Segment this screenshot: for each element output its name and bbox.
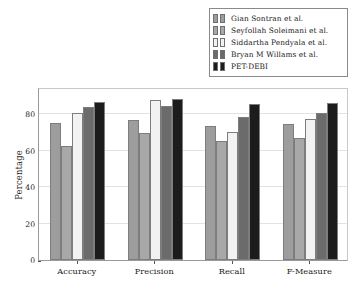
legend-swatch-gian-sontran [213,14,227,23]
y-tick-label: 80 [9,111,35,119]
bar [327,103,338,260]
bar [283,124,294,260]
legend-swatch-bryan-m-willams [213,50,227,59]
y-axis-title: Percentage [14,120,24,230]
bar [150,100,161,260]
legend-label: Bryan M Willams et al. [231,50,318,59]
legend-swatch-pet-debi [213,62,227,71]
bar [172,99,183,260]
legend-label: Gian Sontran et al. [231,14,303,23]
x-tick-label: Accuracy [37,266,117,276]
y-tick-label: 60 [9,148,35,156]
x-tick-label: F-Measure [269,266,349,276]
legend-item: Siddartha Pendyala et al. [213,36,343,48]
bar [161,106,172,260]
bar [205,126,216,260]
y-tick-mark [38,261,41,262]
y-tick-label: 20 [9,221,35,229]
bar [72,113,83,260]
legend-label: PET-DEBI [231,62,268,71]
legend-item: Bryan M Willams et al. [213,49,343,61]
legend-swatch-seyfollah-soleimani [213,26,227,35]
bar-chart-figure: Gian Sontran et al. Seyfollah Soleimani … [0,0,355,298]
y-tick-label: 0 [9,257,35,265]
plot-area [38,88,348,261]
chart-legend: Gian Sontran et al. Seyfollah Soleimani … [209,8,348,77]
x-tick-mark [154,261,155,264]
bar [249,104,260,260]
y-tick-label: 40 [9,184,35,192]
bar-group-recall [205,89,260,260]
bar [294,138,305,260]
bar [227,132,238,260]
bar [61,146,72,260]
bar [216,141,227,260]
bar [139,133,150,260]
x-tick-mark [309,261,310,264]
bar-group-f-measure [283,89,338,260]
legend-swatch-siddartha-pendyala [213,38,227,47]
bar [83,107,94,260]
x-tick-label: Precision [114,266,194,276]
bar-group-accuracy [50,89,105,260]
bar [50,123,61,260]
legend-label: Siddartha Pendyala et al. [231,38,327,47]
bar-group-precision [128,89,183,260]
bar [305,119,316,260]
legend-label: Seyfollah Soleimani et al. [231,26,328,35]
legend-item: PET-DEBI [213,61,343,73]
legend-item: Seyfollah Soleimani et al. [213,24,343,36]
x-tick-mark [232,261,233,264]
bar [238,117,249,260]
bar [94,102,105,260]
bar [128,120,139,260]
bar [316,113,327,261]
legend-item: Gian Sontran et al. [213,12,343,24]
x-tick-label: Recall [192,266,272,276]
x-tick-mark [77,261,78,264]
